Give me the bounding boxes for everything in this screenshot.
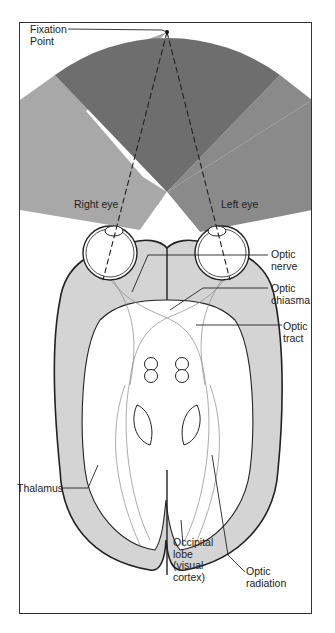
fixation-point-label: Fixation Point (30, 24, 67, 47)
optic-radiation-label: Optic radiation (246, 566, 286, 589)
left-eye-ball (195, 226, 249, 280)
left-eye-label: Left eye (221, 199, 258, 211)
right-eye-label: Right eye (74, 199, 118, 211)
optic-chiasma-label: Optic chiasma (271, 283, 310, 306)
occipital-lobe-label: Occipital lobe (visual cortex) (173, 537, 213, 583)
thalamus-label: Thalamus (17, 483, 63, 495)
optic-nerve-label: Optic nerve (271, 249, 297, 272)
optic-tract-label: Optic tract (283, 321, 308, 344)
visual-pathway-diagram (0, 0, 335, 633)
